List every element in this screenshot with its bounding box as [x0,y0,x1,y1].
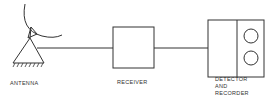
detector-label-line3: RECORDER [215,90,249,97]
dial-icon [244,51,258,65]
detector-label-line1: DETECTOR [215,76,248,83]
dial-icon [244,29,258,43]
antenna-label: ANTENNA [10,80,38,87]
detector-label-line2: AND [215,83,228,90]
receiver-label: RECEIVER [117,79,148,86]
detector-recorder-box [208,20,264,77]
antenna-dish-icon [13,4,62,67]
receiver-box [113,27,154,68]
